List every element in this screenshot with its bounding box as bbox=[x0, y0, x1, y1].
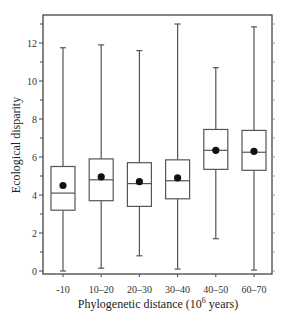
y-tick-label: 8 bbox=[32, 114, 37, 125]
mean-marker bbox=[136, 178, 143, 185]
x-axis-title-unit: years) bbox=[206, 297, 238, 311]
mean-marker bbox=[250, 148, 257, 155]
mean-marker bbox=[59, 182, 66, 189]
boxes bbox=[51, 24, 266, 271]
x-tick-label: 40–50 bbox=[203, 284, 228, 295]
x-tick-label: 60–70 bbox=[242, 284, 267, 295]
box-5 bbox=[242, 27, 266, 270]
box-0 bbox=[51, 48, 75, 271]
y-axis-title: Ecological disparity bbox=[9, 97, 23, 193]
mean-marker bbox=[212, 147, 219, 154]
box-2 bbox=[127, 51, 151, 256]
x-tick-label: -10 bbox=[56, 284, 69, 295]
box-4 bbox=[204, 68, 228, 239]
box-1 bbox=[89, 45, 113, 268]
y-tick-label: 10 bbox=[27, 76, 37, 87]
x-axis: -1010–2020–3030–4040–5060–70 bbox=[56, 274, 266, 295]
mean-marker bbox=[98, 173, 105, 180]
x-tick-label: 30–40 bbox=[165, 284, 190, 295]
y-tick-label: 6 bbox=[32, 152, 37, 163]
plot-border bbox=[43, 15, 272, 274]
y-tick-label: 4 bbox=[32, 190, 37, 201]
x-axis-title-main: Phylogenetic distance (10 bbox=[78, 297, 202, 311]
y-tick-label: 0 bbox=[32, 266, 37, 277]
box-3 bbox=[166, 24, 190, 269]
box-plot-chart: 024681012 -1010–2020–3030–4040–5060–70 E… bbox=[0, 0, 289, 322]
y-tick-label: 2 bbox=[32, 228, 37, 239]
mean-marker bbox=[174, 174, 181, 181]
x-axis-title: Phylogenetic distance (106 years) bbox=[78, 296, 238, 311]
plot-frame bbox=[43, 15, 272, 274]
y-tick-label: 12 bbox=[27, 38, 37, 49]
y-axis: 024681012 bbox=[27, 24, 275, 277]
x-tick-label: 10–20 bbox=[89, 284, 114, 295]
x-tick-label: 20–30 bbox=[127, 284, 152, 295]
